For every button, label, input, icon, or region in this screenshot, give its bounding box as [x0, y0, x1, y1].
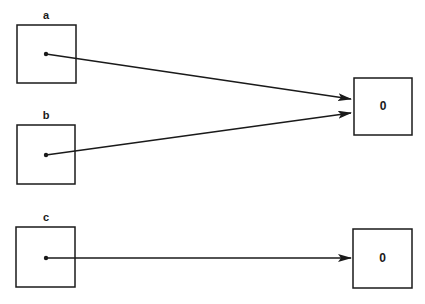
arrow-b-to-object-1 [46, 113, 351, 155]
object-value-1: 0 [354, 99, 412, 113]
arrow-a-to-object-1 [46, 54, 351, 99]
variable-label-a: a [36, 9, 56, 21]
reference-dot-b [44, 153, 48, 157]
reference-dot-a [44, 52, 48, 56]
object-value-2: 0 [353, 251, 412, 265]
reference-dot-c [44, 256, 48, 260]
variable-label-b: b [36, 109, 56, 121]
variable-label-c: c [36, 211, 56, 223]
